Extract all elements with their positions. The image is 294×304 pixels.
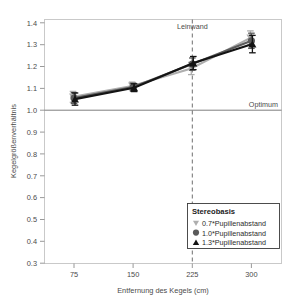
x-tick-label-3: 300: [245, 270, 257, 279]
legend-item-label-1: 1.0*Pupillenabstand: [202, 229, 266, 238]
x-axis: 75 150 225 300 Entfernung des Kegels (cm…: [70, 264, 258, 296]
chart-container: 0.3 0.4 0.5 0.6 0.7 0.8 0.9 1.0 1.1 1.2 …: [0, 0, 294, 304]
y-tick-label-2: 0.5: [27, 215, 37, 224]
x-tick-label-2: 225: [186, 270, 198, 279]
x-axis-title: Entfernung des Kegels (cm): [117, 286, 209, 295]
legend-item-label-0: 0.7*Pupillenabstand: [202, 219, 266, 228]
y-tick-label-6: 0.9: [27, 128, 37, 137]
y-tick-label-10: 1.3: [27, 40, 37, 49]
y-axis-title: Kegelgrößenverhältnis: [9, 104, 18, 178]
legend-item-label-2: 1.3*Pupillenabstand: [202, 238, 266, 247]
leinwand-label: Leinwand: [177, 22, 208, 31]
chart-canvas: 0.3 0.4 0.5 0.6 0.7 0.8 0.9 1.0 1.1 1.2 …: [0, 0, 294, 304]
optimum-label: Optimum: [249, 100, 278, 109]
legend-item-2[interactable]: 1.3*Pupillenabstand: [193, 238, 266, 247]
y-tick-label-5: 0.8: [27, 150, 37, 159]
legend[interactable]: Stereobasis 0.7*Pupillenabstand 1.0*Pupi…: [188, 204, 280, 249]
x-tick-label-0: 75: [70, 270, 78, 279]
y-tick-label-8: 1.1: [27, 84, 37, 93]
y-tick-label-0: 0.3: [27, 259, 37, 268]
y-tick-label-4: 0.7: [27, 172, 37, 181]
y-tick-label-7: 1.0: [27, 106, 37, 115]
y-axis: 0.3 0.4 0.5 0.6 0.7 0.8 0.9 1.0 1.1 1.2 …: [9, 19, 45, 268]
legend-item-0[interactable]: 0.7*Pupillenabstand: [193, 219, 266, 228]
circle-icon: [193, 230, 199, 236]
legend-item-1[interactable]: 1.0*Pupillenabstand: [193, 229, 266, 238]
y-tick-label-9: 1.2: [27, 62, 37, 71]
y-tick-label-1: 0.4: [27, 237, 37, 246]
y-tick-group: [40, 23, 45, 263]
x-tick-label-1: 150: [127, 270, 139, 279]
y-tick-label-3: 0.6: [27, 193, 37, 202]
y-tick-label-11: 1.4: [27, 19, 37, 28]
legend-title: Stereobasis: [192, 207, 235, 216]
